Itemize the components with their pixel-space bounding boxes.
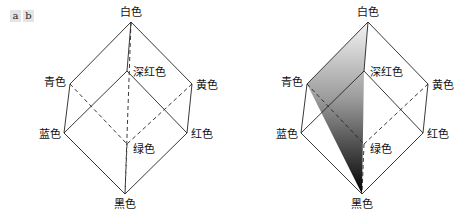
hidden-edge-yellow-green <box>364 84 428 144</box>
cube-b: 白色 深红色 青色 黄色 蓝色 红色 绿色 黑色 <box>276 5 454 211</box>
label-red: 红色 <box>427 127 449 141</box>
label-green: 绿色 <box>133 142 155 156</box>
label-black: 黑色 <box>114 197 136 211</box>
color-cube-diagrams: 白色 深红色 青色 黄色 蓝色 红色 绿色 黑色 白色 深红色 青色 黄色 蓝色… <box>0 0 455 218</box>
grayscale-plane <box>307 22 368 194</box>
edge-cyan-blue <box>301 84 307 133</box>
label-deep-red: 深红色 <box>370 65 403 79</box>
edge-cyan-blue <box>64 84 70 133</box>
edge-blue-black <box>64 133 125 194</box>
hidden-edge-yellow-green <box>127 84 192 144</box>
edge-yellow-red <box>423 84 428 133</box>
label-cyan: 青色 <box>44 75 66 89</box>
label-cyan: 青色 <box>281 75 303 89</box>
label-blue: 蓝色 <box>276 127 298 141</box>
label-black: 黑色 <box>351 197 373 211</box>
label-deep-red: 深红色 <box>133 65 166 79</box>
label-yellow: 黄色 <box>196 78 218 92</box>
edge-deepred-red <box>127 71 187 133</box>
label-blue: 蓝色 <box>39 127 61 141</box>
cube-a: 白色 深红色 青色 黄色 蓝色 红色 绿色 黑色 <box>39 5 218 211</box>
edge-yellow-red <box>187 84 192 133</box>
edge-deepred-red <box>364 71 423 133</box>
hidden-edge-cyan-green <box>70 84 127 144</box>
label-red: 红色 <box>191 127 213 141</box>
label-green: 绿色 <box>370 142 392 156</box>
label-white: 白色 <box>357 5 379 19</box>
label-yellow: 黄色 <box>432 78 454 92</box>
label-white: 白色 <box>120 5 142 19</box>
edge-white-cyan <box>70 22 131 84</box>
